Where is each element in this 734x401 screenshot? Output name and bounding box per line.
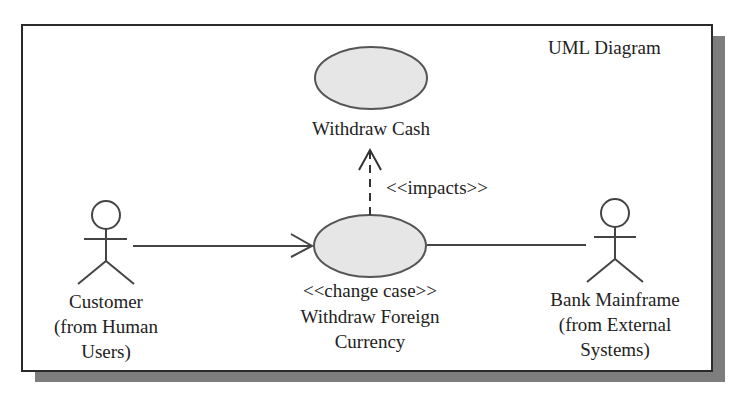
use-case-withdraw-foreign-currency[interactable]	[314, 215, 426, 277]
impacts-dependency-arrow	[359, 150, 381, 215]
use-case-label-foreign-line1: Withdraw Foreign	[280, 305, 460, 329]
use-case-label-withdraw-cash: Withdraw Cash	[301, 117, 441, 141]
actor-bank-mainframe-name: Bank Mainframe	[535, 288, 695, 312]
use-case-withdraw-cash[interactable]	[315, 47, 427, 109]
actor-customer-package-line2: Users)	[36, 340, 176, 364]
change-case-stereotype-label: <<change case>>	[280, 279, 460, 303]
impacts-stereotype-label: <<impacts>>	[386, 176, 488, 200]
actor-customer-name: Customer	[36, 290, 176, 314]
actor-customer-icon[interactable]	[78, 201, 134, 284]
actor-bank-mainframe-package-line1: (from External	[535, 313, 695, 337]
use-case-label-foreign-line2: Currency	[280, 330, 460, 354]
diagram-title: UML Diagram	[548, 36, 661, 60]
customer-association-arrow	[133, 234, 312, 257]
actor-bank-mainframe-icon[interactable]	[587, 199, 643, 282]
actor-bank-mainframe-package-line2: Systems)	[535, 338, 695, 362]
actor-customer-package-line1: (from Human	[36, 315, 176, 339]
